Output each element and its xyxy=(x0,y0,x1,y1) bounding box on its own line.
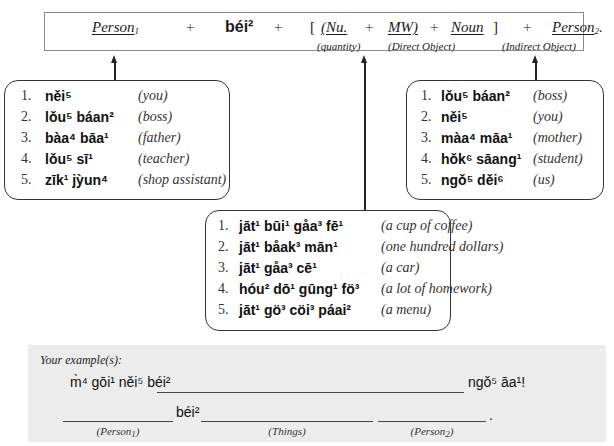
label-person2: (Person2) xyxy=(378,425,486,439)
item-cantonese: zīk¹ jỳun⁴ xyxy=(45,172,108,188)
item-number: 1. xyxy=(421,88,432,104)
person2-label: Person xyxy=(552,19,595,35)
list-item: 3. jāt¹ gåa³ cē¹ (a car) xyxy=(206,258,450,279)
item-number: 5. xyxy=(421,172,432,188)
line2-bei-text: béi² xyxy=(176,404,199,420)
list-item: 4. lǒu⁵ sī¹ (teacher) xyxy=(5,149,229,170)
item-gloss: (father) xyxy=(138,130,181,146)
label-close: ) xyxy=(136,425,140,437)
list-item: 4. hóu² dō¹ gūng¹ fö³ (a lot of homework… xyxy=(206,279,450,300)
item-number: 4. xyxy=(21,151,32,167)
item-cantonese: hǒk⁶ sāang¹ xyxy=(441,151,521,167)
line2-period: . xyxy=(489,407,493,423)
person2-options-box: 1. lǒu⁵ báan² (boss) 2. něi⁵ (you) 3. mà… xyxy=(406,80,604,200)
item-gloss: (us) xyxy=(533,172,555,188)
item-number: 2. xyxy=(218,239,229,255)
person2-period: . xyxy=(599,19,603,35)
formula-plus-3: + xyxy=(365,19,373,36)
formula-bracket-open: [ xyxy=(310,19,315,36)
item-number: 3. xyxy=(21,130,32,146)
list-item: 3. màa⁴ māa¹ (mother) xyxy=(407,128,603,149)
item-cantonese: lǒu⁵ báan² xyxy=(45,109,114,125)
item-gloss: (a lot of homework) xyxy=(381,281,492,297)
label-person1: (Person1) xyxy=(63,425,173,439)
list-item: 1. jāt¹ būi¹ gåa³ fē¹ (a cup of coffee) xyxy=(206,216,450,237)
line2-person2-blank-input[interactable] xyxy=(378,421,486,422)
list-item: 4. hǒk⁶ sāang¹ (student) xyxy=(407,149,603,170)
item-gloss: (you) xyxy=(138,88,168,104)
item-cantonese: màa⁴ māa¹ xyxy=(441,130,513,146)
item-number: 2. xyxy=(21,109,32,125)
item-cantonese: lǒu⁵ báan² xyxy=(441,88,510,104)
item-number: 4. xyxy=(218,281,229,297)
line1-blank-input[interactable] xyxy=(157,392,464,393)
item-number: 5. xyxy=(218,302,229,318)
line1-start-text: m̀⁴ gōi¹ něi⁵ béi² xyxy=(70,374,171,390)
label-direct-object: (Direct Object) xyxy=(388,40,455,52)
label-quantity: (quantity) xyxy=(317,40,360,52)
item-cantonese: bàa⁴ bāa¹ xyxy=(45,130,109,146)
item-number: 2. xyxy=(421,109,432,125)
label-things: (Things) xyxy=(201,425,373,437)
arrow-line xyxy=(535,62,537,80)
item-cantonese: něi⁵ xyxy=(45,88,72,104)
arrow-line xyxy=(114,62,116,80)
list-item: 5. ngǒ⁵ děi⁶ (us) xyxy=(407,170,603,191)
formula-bracket-close: ] xyxy=(493,19,498,36)
formula-plus-2: + xyxy=(274,19,282,36)
item-cantonese: hóu² dō¹ gūng¹ fö³ xyxy=(239,281,360,297)
item-number: 5. xyxy=(21,172,32,188)
formula-noun: Noun xyxy=(451,19,484,36)
formula-person2: Person2. xyxy=(552,19,603,36)
formula-person1: Person1 xyxy=(92,19,139,36)
item-cantonese: jāt¹ gö³ cöi³ páai² xyxy=(239,302,351,318)
formula-bei: béi² xyxy=(225,18,253,36)
list-item: 5. zīk¹ jỳun⁴ (shop assistant) xyxy=(5,170,229,191)
item-gloss: (boss) xyxy=(138,109,172,125)
label-person2-text: (Person xyxy=(411,425,446,437)
item-cantonese: jāt¹ būi¹ gåa³ fē¹ xyxy=(239,218,343,234)
item-gloss: (a menu) xyxy=(381,302,431,318)
item-number: 4. xyxy=(421,151,432,167)
list-item: 5. jāt¹ gö³ cöi³ páai² (a menu) xyxy=(206,300,450,321)
item-number: 1. xyxy=(21,88,32,104)
sentence-pattern-formula: Person1 + béi² + [ (Nu. + MW) + Noun ] +… xyxy=(44,12,584,51)
item-gloss: (a cup of coffee) xyxy=(381,218,472,234)
item-gloss: (a car) xyxy=(381,260,420,276)
item-gloss: (teacher) xyxy=(138,151,189,167)
item-gloss: (student) xyxy=(533,151,583,167)
item-gloss: (you) xyxy=(533,109,563,125)
practice-title: Your example(s): xyxy=(40,353,122,368)
list-item: 1. lǒu⁵ báan² (boss) xyxy=(407,86,603,107)
formula-plus-4: + xyxy=(430,19,438,36)
list-item: 2. něi⁵ (you) xyxy=(407,107,603,128)
line2-person1-blank-input[interactable] xyxy=(63,421,173,422)
list-item: 2. lǒu⁵ báan² (boss) xyxy=(5,107,229,128)
item-gloss: (boss) xyxy=(533,88,567,104)
label-person1-text: (Person xyxy=(97,425,132,437)
line1-end-text: ngǒ⁵ āa¹! xyxy=(468,374,525,390)
item-number: 3. xyxy=(421,130,432,146)
line2-things-blank-input[interactable] xyxy=(201,421,373,422)
list-item: 1. něi⁵ (you) xyxy=(5,86,229,107)
item-cantonese: ngǒ⁵ děi⁶ xyxy=(441,172,504,188)
formula-mw: MW) xyxy=(388,19,418,36)
item-gloss: (shop assistant) xyxy=(138,172,226,188)
formula-nu: (Nu. xyxy=(321,19,347,36)
list-item: 3. bàa⁴ bāa¹ (father) xyxy=(5,128,229,149)
item-gloss: (mother) xyxy=(533,130,582,146)
item-cantonese: lǒu⁵ sī¹ xyxy=(45,151,93,167)
person1-options-box: 1. něi⁵ (you) 2. lǒu⁵ báan² (boss) 3. bà… xyxy=(4,80,230,200)
item-gloss: (one hundred dollars) xyxy=(381,239,503,255)
label-close: ) xyxy=(450,425,454,437)
practice-box: Your example(s): m̀⁴ gōi¹ něi⁵ béi² ngǒ⁵… xyxy=(28,345,606,442)
list-item: 2. jāt¹ båak³ mān¹ (one hundred dollars) xyxy=(206,237,450,258)
item-cantonese: jāt¹ gåa³ cē¹ xyxy=(239,260,317,276)
formula-plus-5: + xyxy=(523,19,531,36)
direct-object-options-box: 1. jāt¹ būi¹ gåa³ fē¹ (a cup of coffee) … xyxy=(205,210,451,331)
person1-subscript: 1 xyxy=(135,26,140,36)
item-cantonese: něi⁵ xyxy=(441,109,468,125)
label-indirect-object: (Indirect Object) xyxy=(502,40,576,52)
item-number: 1. xyxy=(218,218,229,234)
formula-plus-1: + xyxy=(186,19,194,36)
